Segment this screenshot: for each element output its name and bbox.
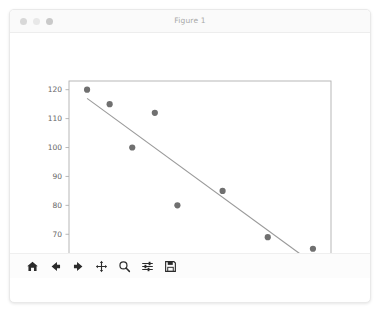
window-titlebar[interactable]: Figure 1 [10, 10, 370, 33]
svg-text:90: 90 [52, 172, 62, 181]
save-icon[interactable] [162, 258, 178, 274]
svg-text:100: 100 [48, 143, 63, 152]
svg-text:120: 120 [48, 85, 63, 94]
home-icon[interactable] [24, 258, 40, 274]
figure-window: Figure 1 567891060708090100110120 [9, 9, 371, 303]
svg-text:80: 80 [52, 201, 62, 210]
window-title: Figure 1 [10, 10, 370, 32]
zoom-icon[interactable] [116, 258, 132, 274]
subplot-config-icon[interactable] [139, 258, 155, 274]
pan-icon[interactable] [93, 258, 109, 274]
scatter-plot: 567891060708090100110120 [10, 33, 370, 278]
back-arrow-icon[interactable] [47, 258, 63, 274]
navigation-toolbar[interactable] [10, 253, 370, 278]
forward-arrow-icon[interactable] [70, 258, 86, 274]
svg-text:70: 70 [52, 230, 62, 239]
figure-canvas[interactable]: 567891060708090100110120 [10, 33, 370, 278]
svg-text:110: 110 [48, 114, 63, 123]
